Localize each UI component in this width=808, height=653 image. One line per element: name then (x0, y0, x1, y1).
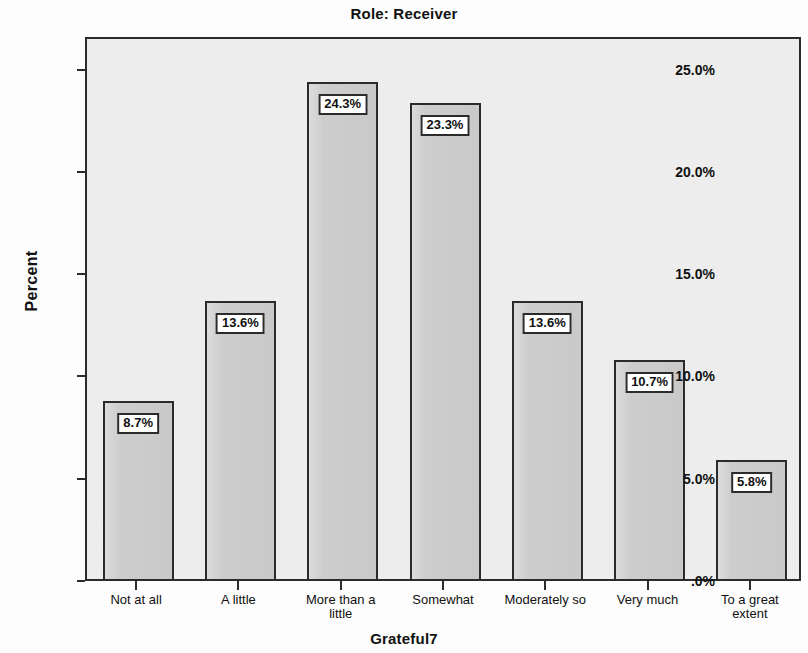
y-axis-tick-label: 5.0% (683, 471, 715, 487)
bar-shading (514, 303, 581, 579)
bar[interactable]: 5.8% (716, 460, 787, 579)
x-axis-tick-mark (647, 581, 649, 590)
y-axis-tick-label: 10.0% (675, 368, 715, 384)
bar[interactable]: 13.6% (512, 301, 583, 579)
x-axis-tick-label-line: Somewhat (391, 593, 495, 607)
y-axis-tick-mark (77, 69, 85, 71)
bar-value-label: 13.6% (216, 313, 265, 334)
bar[interactable]: 10.7% (614, 360, 685, 579)
y-axis-tick-mark (77, 478, 85, 480)
bar[interactable]: 24.3% (307, 82, 378, 579)
y-axis-title: Percent (23, 201, 41, 361)
y-axis-tick-mark (77, 580, 85, 582)
x-axis-tick-label-line: Not at all (84, 593, 188, 607)
x-axis-tick-label: A little (186, 593, 290, 607)
x-axis-tick-label-line: More than a (289, 593, 393, 607)
bar-shading (412, 105, 479, 580)
x-axis-tick-label: Not at all (84, 593, 188, 607)
x-axis-tick-mark (135, 581, 137, 590)
bar-value-label: 13.6% (523, 313, 572, 334)
bar-shading (616, 362, 683, 579)
bar-value-label: 10.7% (625, 372, 674, 393)
y-axis-tick-mark (77, 273, 85, 275)
bar[interactable]: 23.3% (410, 103, 481, 580)
bar-value-label: 23.3% (421, 115, 470, 136)
plot-area: 8.7%13.6%24.3%23.3%13.6%10.7%5.8% (85, 37, 801, 581)
y-axis-tick-label: .0% (691, 573, 715, 589)
bar[interactable]: 8.7% (103, 401, 174, 579)
bar-value-label: 5.8% (731, 472, 773, 493)
y-axis-tick-label: 15.0% (675, 266, 715, 282)
bar-shading (207, 303, 274, 579)
x-axis-tick-label: Very much (596, 593, 700, 607)
x-axis-tick-label: Moderately so (493, 593, 597, 607)
x-axis-tick-label: More than alittle (289, 593, 393, 621)
x-axis-tick-mark (237, 581, 239, 590)
x-axis-tick-label: Somewhat (391, 593, 495, 607)
bar-shading (309, 84, 376, 579)
x-axis-tick-label-line: Moderately so (493, 593, 597, 607)
x-axis-tick-label-line: little (289, 607, 393, 621)
bar-value-label: 24.3% (318, 94, 367, 115)
x-axis-tick-label: To a greatextent (698, 593, 802, 621)
x-axis-title: Grateful7 (0, 630, 808, 647)
y-axis-tick-mark (77, 171, 85, 173)
x-axis-tick-mark (749, 581, 751, 590)
x-axis-tick-label-line: Very much (596, 593, 700, 607)
x-axis-tick-label-line: To a great (698, 593, 802, 607)
y-axis-tick-label: 25.0% (675, 62, 715, 78)
bar-value-label: 8.7% (117, 413, 159, 434)
bar[interactable]: 13.6% (205, 301, 276, 579)
y-axis-tick-label: 20.0% (675, 164, 715, 180)
x-axis-tick-mark (442, 581, 444, 590)
chart-title: Role: Receiver (0, 5, 808, 22)
x-axis-tick-label-line: extent (698, 607, 802, 621)
x-axis-tick-mark (340, 581, 342, 590)
x-axis-tick-mark (544, 581, 546, 590)
bar-chart: Role: Receiver Percent 8.7%13.6%24.3%23.… (0, 0, 808, 653)
y-axis-tick-mark (77, 375, 85, 377)
x-axis-tick-label-line: A little (186, 593, 290, 607)
